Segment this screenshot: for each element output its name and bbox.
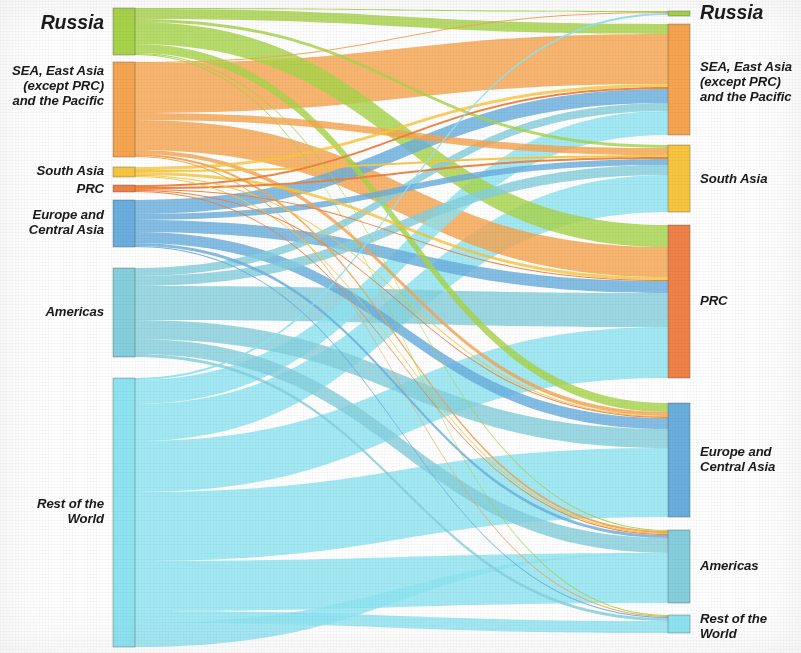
node-label-left-prc: PRC: [76, 182, 104, 197]
sankey-node-right-prc_r[interactable]: [668, 225, 690, 378]
sankey-figure: RussiaSEA, East Asia (except PRC) and th…: [0, 0, 801, 653]
sankey-node-left-row[interactable]: [113, 378, 135, 647]
sankey-node-left-europe[interactable]: [113, 200, 135, 247]
node-label-right-russia_r: Russia: [700, 2, 763, 24]
node-label-right-sea_r: SEA, East Asia (except PRC) and the Paci…: [700, 60, 792, 104]
sankey-node-left-south_asia[interactable]: [113, 167, 135, 177]
node-label-right-south_asia_r: South Asia: [700, 172, 767, 187]
node-label-right-americas_r: Americas: [700, 559, 759, 574]
sankey-node-right-south_asia_r[interactable]: [668, 145, 690, 212]
node-label-left-russia: Russia: [41, 12, 104, 34]
node-label-right-prc_r: PRC: [700, 294, 728, 309]
sankey-canvas: [0, 0, 801, 653]
sankey-node-left-prc[interactable]: [113, 185, 135, 192]
node-label-left-south_asia: South Asia: [37, 164, 104, 179]
node-label-right-row_r: Rest of the World: [700, 612, 767, 642]
node-label-left-row: Rest of the World: [37, 497, 104, 527]
sankey-node-right-sea_r[interactable]: [668, 24, 690, 135]
node-label-right-europe_r: Europe and Central Asia: [700, 445, 775, 475]
sankey-node-left-russia[interactable]: [113, 8, 135, 55]
node-label-left-europe: Europe and Central Asia: [29, 208, 104, 238]
sankey-node-left-sea[interactable]: [113, 62, 135, 157]
sankey-node-right-europe_r[interactable]: [668, 403, 690, 517]
node-label-left-sea: SEA, East Asia (except PRC) and the Paci…: [12, 64, 104, 108]
sankey-node-left-americas[interactable]: [113, 268, 135, 357]
sankey-node-right-americas_r[interactable]: [668, 530, 690, 603]
sankey-links-layer: [135, 8, 668, 647]
node-label-left-americas: Americas: [45, 305, 104, 320]
sankey-node-right-russia_r[interactable]: [668, 11, 690, 16]
sankey-link[interactable]: [135, 553, 668, 611]
sankey-node-right-row_r[interactable]: [668, 615, 690, 633]
